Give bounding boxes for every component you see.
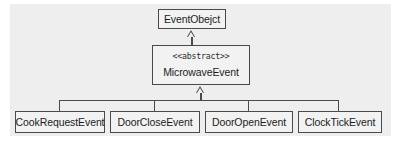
class-name-label: DoorCloseEvent <box>117 116 192 128</box>
generalization-horizontal-bus <box>59 100 339 101</box>
generalization-arrowhead-to-microwave-event <box>196 86 204 93</box>
class-name-label: DoorOpenEvent <box>212 116 286 128</box>
class-box-event-object[interactable]: EventObejct <box>158 9 226 29</box>
class-name-label: MicrowaveEvent <box>163 66 239 78</box>
uml-class-diagram: EventObejct <<abstract>> MicrowaveEvent … <box>0 0 401 146</box>
class-stereotype-label: <<abstract>> <box>173 51 230 62</box>
class-box-clock-tick-event[interactable]: ClockTickEvent <box>298 111 382 133</box>
class-name-label: CookRequestEvent <box>16 116 105 128</box>
generalization-branch-clock-tick-event <box>338 100 339 111</box>
generalization-branch-door-close-event <box>154 100 155 111</box>
class-name-label: ClockTickEvent <box>305 116 376 128</box>
class-box-door-close-event[interactable]: DoorCloseEvent <box>110 111 200 133</box>
class-name-label: EventObejct <box>164 13 220 25</box>
class-box-microwave-event[interactable]: <<abstract>> MicrowaveEvent <box>152 45 250 85</box>
class-box-door-open-event[interactable]: DoorOpenEvent <box>205 111 293 133</box>
generalization-arrowhead-to-event-object <box>187 30 195 37</box>
generalization-branch-door-open-event <box>248 100 249 111</box>
class-box-cook-request-event[interactable]: CookRequestEvent <box>15 111 105 133</box>
generalization-branch-cook-request-event <box>59 100 60 111</box>
generalization-line-to-event-object <box>191 37 192 45</box>
